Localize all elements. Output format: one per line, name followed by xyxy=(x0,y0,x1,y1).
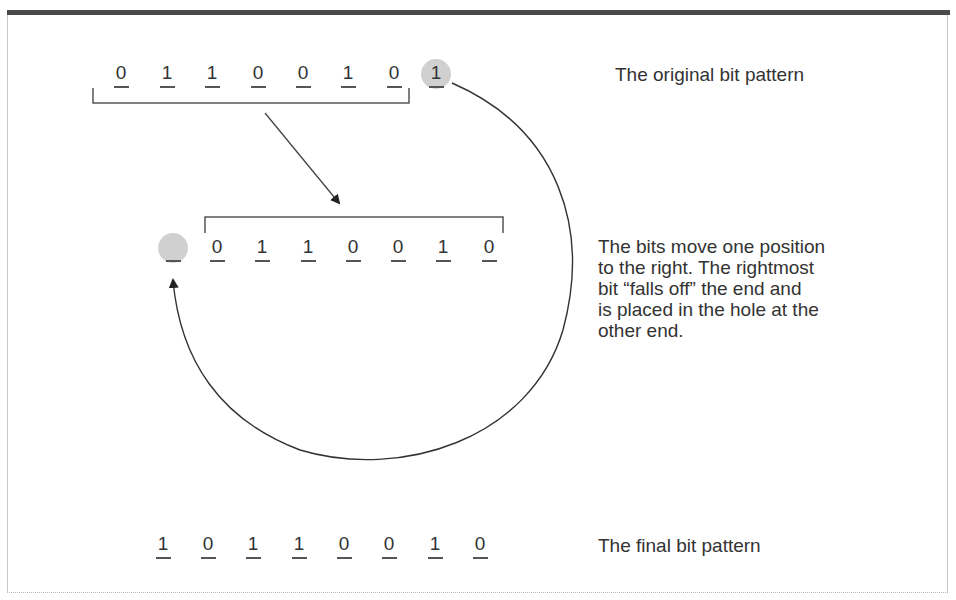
shifted-group-bracket xyxy=(205,217,503,233)
wraparound-arrow xyxy=(173,83,572,460)
original-group-bracket xyxy=(93,88,409,103)
diagram-connectors xyxy=(0,0,956,600)
shift-arrow xyxy=(265,113,339,203)
